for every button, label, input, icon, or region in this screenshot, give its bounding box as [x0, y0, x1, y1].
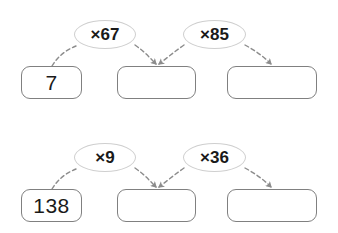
value-box-empty[interactable]	[117, 66, 196, 99]
dashed-arrow	[245, 168, 271, 187]
function-machine-chain: 7×67×85	[0, 14, 338, 114]
value-box-empty[interactable]	[117, 189, 196, 222]
dashed-arrow	[52, 46, 76, 66]
operation-bubble: ×85	[183, 20, 246, 49]
operation-label: ×36	[200, 149, 229, 166]
value-box-filled[interactable]: 7	[21, 66, 82, 99]
operation-bubble: ×36	[183, 143, 246, 172]
value-box-label: 7	[45, 72, 57, 93]
dashed-arrow	[135, 45, 156, 64]
operation-label: ×9	[95, 149, 114, 166]
value-box-empty[interactable]	[227, 189, 317, 222]
arrow-layer	[0, 14, 338, 114]
value-box-filled[interactable]: 138	[21, 189, 82, 222]
function-machine-worksheet: 7×67×85138×9×36	[0, 0, 338, 233]
dashed-arrow	[159, 168, 184, 187]
value-box-label: 138	[33, 195, 70, 216]
dashed-arrow	[135, 168, 156, 187]
dashed-arrow	[159, 45, 184, 64]
dashed-arrow	[52, 169, 76, 189]
dashed-arrow	[245, 45, 271, 64]
function-machine-chain: 138×9×36	[0, 137, 338, 233]
operation-bubble: ×9	[74, 143, 136, 172]
operation-label: ×67	[91, 26, 120, 43]
value-box-empty[interactable]	[227, 66, 317, 99]
operation-bubble: ×67	[74, 20, 136, 49]
operation-label: ×85	[200, 26, 229, 43]
